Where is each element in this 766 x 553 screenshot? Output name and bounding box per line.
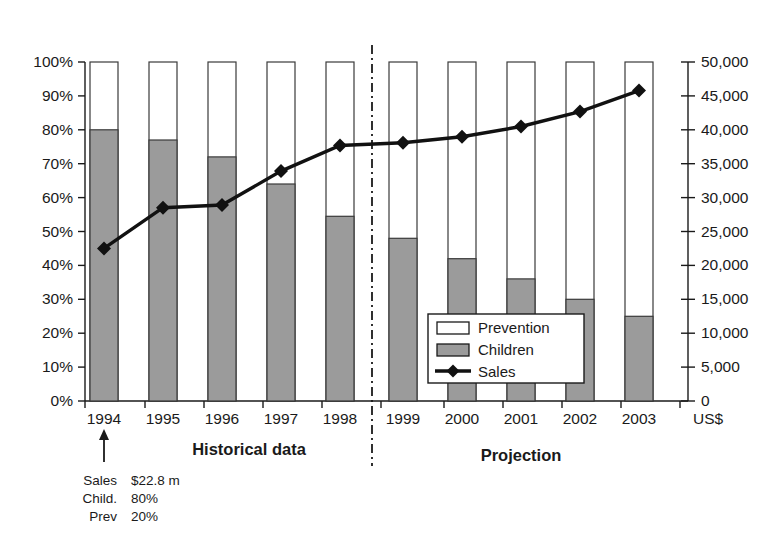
year-label-2000: 2000	[445, 410, 480, 427]
right-axis	[681, 62, 695, 401]
historical-data-label: Historical data	[192, 440, 307, 458]
left-tick-label: 70%	[42, 155, 73, 172]
legend: Prevention Children Sales	[428, 314, 584, 383]
right-tick-label: 10,000	[701, 324, 749, 341]
left-axis	[78, 62, 85, 401]
year-label-1995: 1995	[146, 410, 180, 427]
legend-swatch-children	[437, 344, 469, 356]
year-label-1994: 1994	[87, 410, 122, 427]
right-tick-label: 35,000	[701, 155, 749, 172]
right-axis-tick-labels: 50,000 45,000 40,000 35,000 30,000 25,00…	[701, 53, 749, 409]
callout-row-label-children: Child.	[82, 491, 117, 506]
bar-group-1996	[208, 62, 236, 401]
right-tick-label: 0	[701, 392, 710, 409]
bar-group-1995	[149, 62, 177, 401]
left-tick-label: 0%	[51, 392, 74, 409]
right-tick-label: 20,000	[701, 256, 749, 273]
bar-group-2003	[625, 62, 653, 401]
left-tick-label: 60%	[42, 189, 73, 206]
bar-group-1997	[267, 62, 295, 401]
year-label-2003: 2003	[622, 410, 656, 427]
right-tick-label: 45,000	[701, 87, 749, 104]
right-tick-label: 25,000	[701, 223, 749, 240]
year-label-1998: 1998	[323, 410, 357, 427]
chart-container: 100% 90% 80% 70% 60% 50% 40% 30% 20% 10%…	[0, 0, 766, 553]
chart-canvas: 100% 90% 80% 70% 60% 50% 40% 30% 20% 10%…	[0, 0, 766, 553]
right-tick-label: 5,000	[701, 358, 740, 375]
bar-group-1998	[326, 62, 354, 401]
legend-label-prevention: Prevention	[478, 319, 550, 336]
right-tick-label: 15,000	[701, 290, 749, 307]
bar-group-1994	[90, 62, 118, 401]
callout-row-label-sales: Sales	[83, 473, 117, 488]
left-tick-label: 10%	[42, 358, 73, 375]
legend-label-children: Children	[478, 341, 534, 358]
callout-arrow	[99, 429, 109, 462]
bar-children	[149, 140, 177, 401]
year-label-1999: 1999	[386, 410, 420, 427]
x-axis-ticks	[85, 401, 680, 408]
year-label-2002: 2002	[563, 410, 597, 427]
left-tick-label: 100%	[33, 53, 73, 70]
left-tick-label: 30%	[42, 290, 73, 307]
bar-children	[90, 130, 118, 401]
left-tick-label: 80%	[42, 121, 73, 138]
year-label-1997: 1997	[264, 410, 298, 427]
callout-row-value-children: 80%	[131, 491, 158, 506]
legend-swatch-prevention	[437, 322, 469, 334]
bar-children	[208, 157, 236, 401]
right-tick-label: 40,000	[701, 121, 749, 138]
bar-children	[625, 316, 653, 401]
left-tick-label: 50%	[42, 223, 73, 240]
callout-table: Sales $22.8 m Child. 80% Prev 20%	[82, 473, 179, 524]
left-axis-tick-labels: 100% 90% 80% 70% 60% 50% 40% 30% 20% 10%…	[33, 53, 73, 409]
projection-label: Projection	[481, 446, 562, 464]
callout-row-value-sales: $22.8 m	[131, 473, 180, 488]
legend-label-sales: Sales	[478, 363, 516, 380]
callout-row-label-prevention: Prev	[89, 509, 117, 524]
left-tick-label: 90%	[42, 87, 73, 104]
right-tick-label: 30,000	[701, 189, 749, 206]
left-tick-label: 20%	[42, 324, 73, 341]
bar-children	[267, 184, 295, 401]
right-tick-label: 50,000	[701, 53, 749, 70]
right-axis-unit-label: US$	[693, 410, 724, 427]
bar-children	[326, 216, 354, 401]
callout-row-value-prevention: 20%	[131, 509, 158, 524]
year-label-1996: 1996	[205, 410, 239, 427]
bar-children	[389, 238, 417, 401]
year-label-2001: 2001	[504, 410, 538, 427]
left-tick-label: 40%	[42, 256, 73, 273]
bar-group-1999	[389, 62, 417, 401]
